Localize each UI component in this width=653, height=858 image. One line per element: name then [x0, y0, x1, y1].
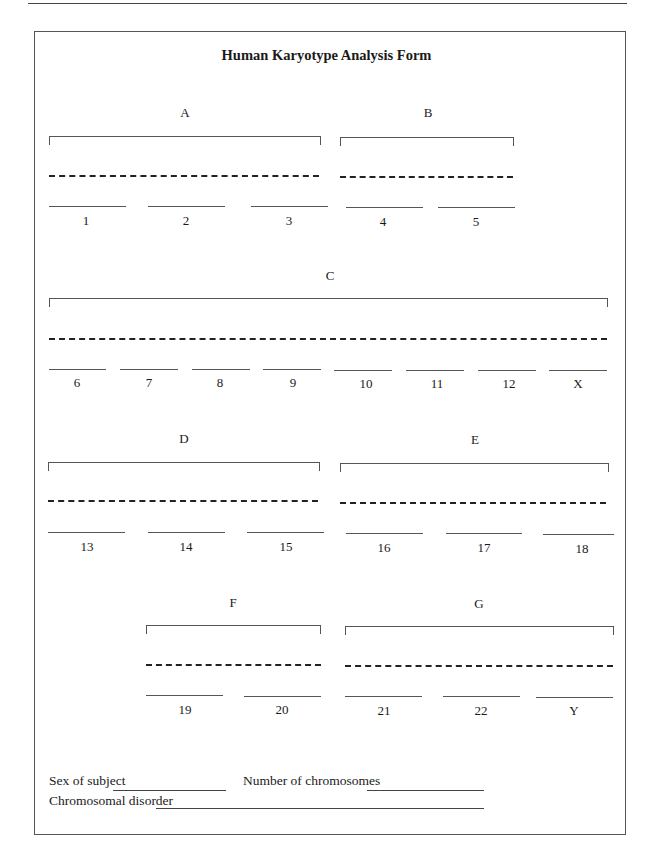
- number-of-chromosomes-field[interactable]: [367, 790, 484, 791]
- chromosome-slot-6[interactable]: [49, 369, 106, 370]
- chromosome-number-14: 14: [180, 539, 193, 555]
- chromosome-slot-3[interactable]: [251, 206, 328, 207]
- group-bracket-d: [48, 462, 320, 471]
- group-dashed-line-d: [48, 500, 318, 502]
- chromosome-number-18: 18: [576, 541, 589, 557]
- chromosome-number-16: 16: [378, 540, 391, 556]
- chromosome-number-22: 22: [475, 703, 488, 719]
- chromosomal-disorder-field[interactable]: [156, 808, 484, 809]
- group-label-g: G: [474, 596, 483, 612]
- chromosome-slot-19[interactable]: [146, 695, 223, 696]
- chromosomal-disorder-label: Chromosomal disorder: [49, 793, 173, 809]
- group-dashed-line-b: [340, 176, 513, 178]
- group-dashed-line-e: [340, 502, 606, 504]
- chromosome-number-10: 10: [360, 376, 373, 392]
- chromosome-number-15: 15: [280, 539, 293, 555]
- chromosome-slot-17[interactable]: [446, 533, 522, 534]
- chromosome-number-y: Y: [569, 703, 578, 719]
- group-bracket-f: [146, 625, 321, 634]
- group-label-a: A: [180, 105, 189, 121]
- chromosome-number-9: 9: [290, 375, 297, 391]
- chromosome-number-13: 13: [81, 539, 94, 555]
- chromosome-number-7: 7: [146, 375, 153, 391]
- chromosome-slot-1[interactable]: [49, 206, 126, 207]
- chromosome-slot-18[interactable]: [543, 534, 614, 535]
- chromosome-number-11: 11: [431, 376, 444, 392]
- group-label-e: E: [471, 432, 479, 448]
- group-dashed-line-a: [49, 175, 319, 177]
- group-bracket-e: [340, 463, 609, 472]
- group-label-d: D: [179, 431, 188, 447]
- chromosome-number-6: 6: [74, 375, 81, 391]
- group-bracket-b: [340, 137, 514, 146]
- chromosome-number-3: 3: [286, 213, 293, 229]
- chromosome-slot-2[interactable]: [148, 206, 225, 207]
- chromosome-number-21: 21: [378, 703, 391, 719]
- chromosome-slot-20[interactable]: [244, 696, 321, 697]
- number-of-chromosomes-label: Number of chromosomes: [243, 773, 380, 789]
- chromosome-slot-10[interactable]: [334, 370, 392, 371]
- chromosome-number-5: 5: [473, 214, 480, 230]
- group-label-c: C: [326, 268, 335, 284]
- group-label-f: F: [229, 595, 236, 611]
- chromosome-number-12: 12: [503, 376, 516, 392]
- chromosome-slot-15[interactable]: [247, 532, 324, 533]
- chromosome-number-1: 1: [83, 213, 90, 229]
- sex-of-subject-field[interactable]: [113, 790, 226, 791]
- chromosome-slot-x[interactable]: [549, 370, 607, 371]
- chromosome-slot-9[interactable]: [263, 369, 321, 370]
- chromosome-slot-y[interactable]: [536, 697, 613, 698]
- group-bracket-g: [345, 626, 614, 635]
- chromosome-slot-5[interactable]: [438, 207, 515, 208]
- sex-of-subject-label: Sex of subject: [49, 773, 126, 789]
- chromosome-slot-21[interactable]: [345, 696, 422, 697]
- group-label-b: B: [424, 105, 433, 121]
- chromosome-number-8: 8: [217, 375, 224, 391]
- chromosome-slot-13[interactable]: [48, 532, 125, 533]
- form-frame: [34, 31, 626, 835]
- chromosome-number-2: 2: [183, 213, 190, 229]
- chromosome-slot-4[interactable]: [346, 207, 423, 208]
- chromosome-number-4: 4: [380, 214, 387, 230]
- chromosome-slot-7[interactable]: [120, 369, 178, 370]
- group-dashed-line-g: [345, 665, 613, 667]
- top-rule: [28, 3, 627, 4]
- group-dashed-line-f: [146, 664, 321, 666]
- group-bracket-a: [49, 136, 321, 145]
- chromosome-slot-22[interactable]: [443, 696, 520, 697]
- form-title: Human Karyotype Analysis Form: [0, 47, 653, 64]
- chromosome-slot-12[interactable]: [478, 370, 536, 371]
- chromosome-number-19: 19: [179, 702, 192, 718]
- chromosome-slot-14[interactable]: [148, 532, 225, 533]
- chromosome-slot-11[interactable]: [406, 370, 464, 371]
- chromosome-slot-8[interactable]: [192, 369, 250, 370]
- group-bracket-c: [49, 298, 608, 307]
- chromosome-number-x: X: [573, 376, 582, 392]
- chromosome-number-17: 17: [478, 540, 491, 556]
- group-dashed-line-c: [49, 338, 607, 340]
- chromosome-slot-16[interactable]: [346, 533, 423, 534]
- chromosome-number-20: 20: [276, 702, 289, 718]
